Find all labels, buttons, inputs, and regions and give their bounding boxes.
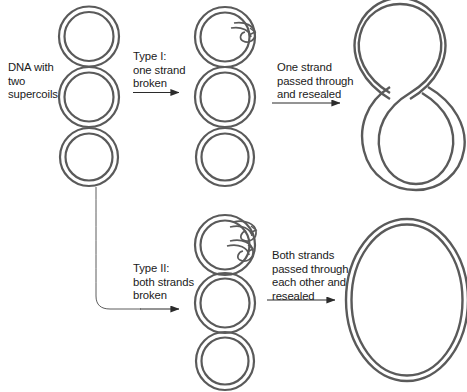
single-strand-break-mark <box>231 23 255 42</box>
label-dna-with-two-supercoils: DNA with two supercoils <box>8 61 58 102</box>
structure-nicked-single-strand <box>195 7 255 186</box>
structure-figure-eight <box>355 0 465 190</box>
dna-topoisomerase-diagram: DNA with two supercoils Type I: one stra… <box>0 0 467 392</box>
label-both-strands-passed-through-each-other-and-resealed: Both strands passed through each other a… <box>272 249 348 303</box>
label-type-i-one-strand-broken: Type I: one strand broken <box>133 50 185 91</box>
label-type-ii-both-strands-broken: Type II: both strands broken <box>133 262 194 303</box>
structure-relaxed-circle <box>346 219 467 381</box>
double-strand-break-mark-lower <box>227 240 253 261</box>
structure-supercoiled-dna <box>59 7 119 187</box>
diagram-canvas <box>0 0 467 392</box>
label-one-strand-passed-through-and-resealed: One strand passed through and resealed <box>277 61 353 102</box>
